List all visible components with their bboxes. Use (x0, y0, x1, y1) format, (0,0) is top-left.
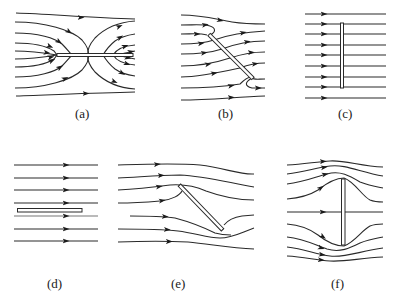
panel-e: (e) (118, 164, 254, 291)
panel-label-c: (c) (338, 106, 352, 121)
panel-label-a: (a) (75, 106, 89, 121)
panel-label-b: (b) (218, 106, 233, 121)
panel-b: (b) (181, 15, 265, 121)
plate (341, 23, 344, 88)
panel-label-f: (f) (331, 276, 344, 291)
panel-a: (a) (15, 13, 135, 121)
panel-c: (c) (305, 14, 386, 121)
plate (342, 179, 346, 245)
plate (18, 209, 83, 213)
plate (178, 184, 224, 231)
plate (57, 54, 133, 57)
panel-d: (d) (14, 165, 98, 291)
panel-label-e: (e) (171, 276, 185, 291)
panel-label-d: (d) (47, 276, 62, 291)
streamline-figure: (a) (b) (0, 0, 397, 298)
panel-f: (f) (287, 161, 383, 291)
